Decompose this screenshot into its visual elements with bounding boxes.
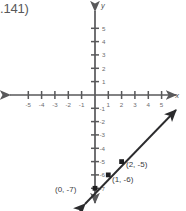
x-tick-label: 5 xyxy=(160,101,164,108)
point-label-2-neg5: (2, -5) xyxy=(126,160,148,169)
y-tick-label: -6 xyxy=(100,171,106,178)
y-tick-label: 5 xyxy=(102,25,106,32)
x-tick-label: 1 xyxy=(107,101,111,108)
x-tick-label: -1 xyxy=(79,101,85,108)
coordinate-plane-graph: .141) xyxy=(0,0,186,211)
y-tick-label: 4 xyxy=(102,38,106,45)
x-tick-label: 4 xyxy=(147,101,151,108)
x-tick-label: -4 xyxy=(39,101,45,108)
x-axis-label: x xyxy=(174,91,179,100)
data-point-marker xyxy=(93,186,98,191)
data-point-marker xyxy=(106,173,111,178)
y-tick-label: -4 xyxy=(100,145,106,152)
x-tick-label: 2 xyxy=(120,101,124,108)
point-label-1-neg6: (1, -6) xyxy=(112,175,134,184)
y-tick-label: -5 xyxy=(100,158,106,165)
x-tick-label: -2 xyxy=(66,101,72,108)
y-tick-label: 2 xyxy=(102,65,106,72)
y-axis-tick-labels: 5 4 3 2 1 -1 -2 -3 -4 -5 -6 -7 xyxy=(100,25,107,192)
x-tick-label: -5 xyxy=(26,101,32,108)
graph-svg: -5 -4 -3 -2 -1 1 2 3 4 5 x xyxy=(0,0,186,211)
data-point-marker xyxy=(119,159,124,164)
point-label-0-neg7: (0, -7) xyxy=(55,185,77,194)
y-axis: 5 4 3 2 1 -1 -2 -3 -4 -5 -6 -7 y xyxy=(91,1,106,203)
y-tick-label: -3 xyxy=(100,131,106,138)
y-tick-label: 3 xyxy=(102,51,106,58)
x-tick-label: -3 xyxy=(52,101,58,108)
y-tick-label: -2 xyxy=(100,118,106,125)
y-tick-label: 1 xyxy=(102,78,106,85)
x-tick-label: 3 xyxy=(133,101,137,108)
y-tick-label: -1 xyxy=(100,105,106,112)
y-axis-label: y xyxy=(100,1,106,10)
